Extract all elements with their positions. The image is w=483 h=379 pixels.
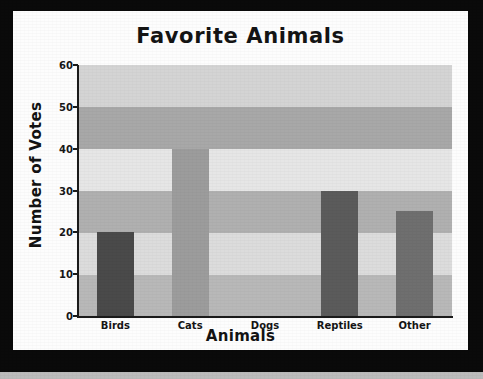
x-axis-label: Animals	[13, 327, 468, 345]
y-axis-ticks: 0102030405060	[13, 11, 73, 350]
bar-other	[396, 211, 433, 316]
background-strip	[0, 372, 483, 379]
y-tick-mark	[73, 190, 78, 192]
background-band	[78, 65, 452, 107]
bar-birds	[97, 232, 134, 316]
background-band	[78, 107, 452, 149]
y-tick-mark	[73, 315, 78, 317]
chart-title: Favorite Animals	[13, 24, 468, 48]
y-tick-mark	[73, 64, 78, 66]
chart-screenshot: Favorite Animals Number of Votes 0102030…	[0, 0, 483, 379]
y-tick-mark	[73, 273, 78, 275]
y-tick-mark	[73, 231, 78, 233]
y-tick-mark	[73, 148, 78, 150]
y-tick-label: 10	[17, 269, 73, 280]
bar-chart: Favorite Animals Number of Votes 0102030…	[13, 11, 468, 350]
bar-reptiles	[321, 191, 358, 317]
y-tick-label: 20	[17, 227, 73, 238]
y-tick-mark	[73, 106, 78, 108]
y-tick-label: 50	[17, 101, 73, 112]
plot-area	[78, 65, 452, 316]
y-tick-label: 60	[17, 60, 73, 71]
background-band	[78, 149, 452, 191]
y-tick-label: 30	[17, 185, 73, 196]
y-tick-label: 40	[17, 143, 73, 154]
y-tick-label: 0	[17, 311, 73, 322]
bar-cats	[172, 149, 209, 316]
